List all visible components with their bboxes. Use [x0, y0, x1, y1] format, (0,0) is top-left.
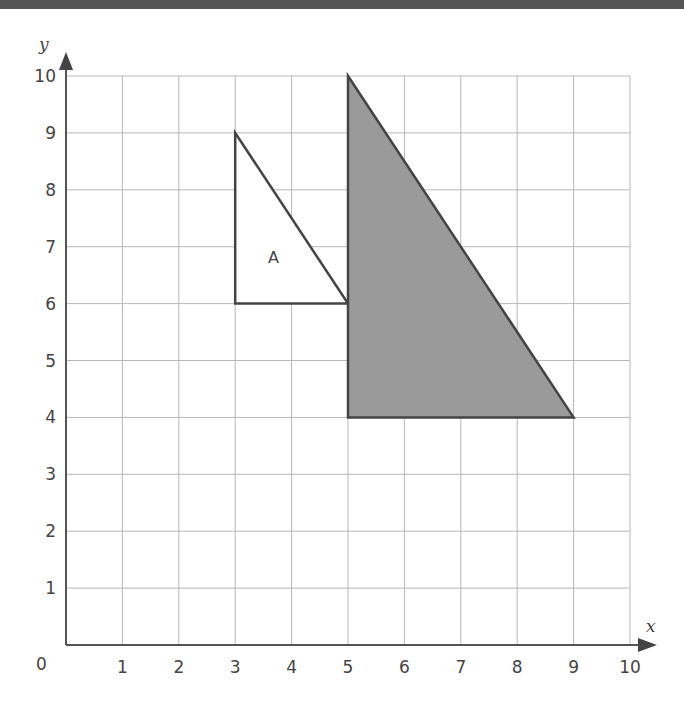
triangle-a-label: A — [268, 248, 279, 267]
y-axis-label: y — [38, 34, 49, 54]
y-tick-label: 7 — [45, 237, 56, 257]
x-tick-label: 8 — [512, 657, 523, 677]
x-tick-label: 10 — [619, 657, 641, 677]
x-axis-label: x — [646, 616, 656, 636]
coordinate-grid: y x 0 A 1234567891012345678910 — [0, 0, 684, 716]
x-tick-label: 6 — [399, 657, 410, 677]
labels: y x 0 A 1234567891012345678910 — [34, 34, 656, 677]
y-tick-label: 4 — [45, 407, 56, 427]
origin-label: 0 — [36, 654, 47, 674]
x-tick-label: 3 — [230, 657, 241, 677]
y-tick-label: 5 — [45, 351, 56, 371]
y-tick-label: 8 — [45, 180, 56, 200]
y-tick-label: 10 — [34, 66, 56, 86]
x-tick-label: 5 — [343, 657, 354, 677]
y-tick-label: 3 — [45, 464, 56, 484]
x-tick-label: 2 — [173, 657, 184, 677]
y-tick-label: 1 — [45, 578, 56, 598]
y-tick-label: 6 — [45, 294, 56, 314]
x-tick-label: 1 — [117, 657, 128, 677]
y-axis-arrow-icon — [59, 52, 73, 70]
x-tick-label: 7 — [455, 657, 466, 677]
x-tick-label: 4 — [286, 657, 297, 677]
y-tick-label: 9 — [45, 123, 56, 143]
x-tick-label: 9 — [568, 657, 579, 677]
x-axis-arrow-icon — [638, 638, 657, 652]
y-tick-label: 2 — [45, 521, 56, 541]
